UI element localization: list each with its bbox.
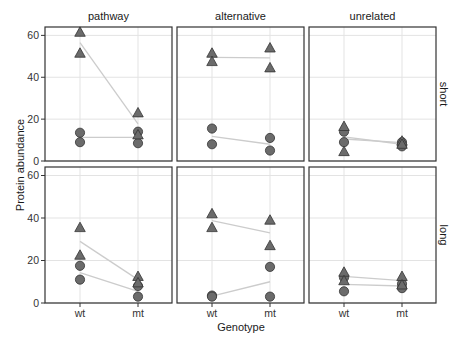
triangle-mean-line [212, 221, 270, 233]
triangle-mean-line [212, 57, 270, 58]
panel-border [45, 167, 172, 303]
circle-point [207, 124, 216, 133]
circle-point [75, 138, 84, 147]
y-tick-label: 0 [33, 155, 39, 167]
strip-label-unrelated: unrelated [350, 10, 396, 22]
x-tick-label: mt [132, 307, 144, 319]
triangle-point [265, 215, 276, 224]
triangle-point [75, 48, 86, 57]
x-tick-label: wt [338, 307, 350, 319]
circle-point [75, 275, 84, 284]
circle-point [133, 292, 142, 301]
strip-label-short: short [438, 82, 450, 106]
panel-short-unrelated [309, 27, 436, 161]
panel-short-pathway [45, 27, 172, 161]
circle-point [265, 146, 274, 155]
triangle-point [265, 43, 276, 52]
circle-point [133, 139, 142, 148]
circle-point [75, 261, 84, 270]
panels-layer [45, 27, 436, 303]
y-axis-title: Protein abundance [14, 119, 26, 211]
circle-point [339, 287, 348, 296]
triangle-point [75, 222, 86, 231]
triangle-mean-line [80, 43, 138, 124]
faceted-scatter-chart: pathwayalternativeunrelatedshortlong0204… [0, 0, 463, 346]
y-tick-label: 20 [27, 113, 39, 125]
panel-short-alternative [177, 27, 304, 161]
x-tick-label: wt [206, 307, 218, 319]
circle-mean-line [212, 136, 270, 144]
y-tick-label: 40 [27, 71, 39, 83]
triangle-point [75, 27, 86, 36]
circle-point [75, 128, 84, 137]
x-tick-label: wt [74, 307, 86, 319]
x-tick-label: mt [264, 307, 276, 319]
y-tick-label: 0 [33, 297, 39, 309]
axes-layer: pathwayalternativeunrelatedshortlong0204… [27, 10, 450, 319]
triangle-point [207, 208, 218, 217]
triangle-point [265, 62, 276, 71]
circle-point [207, 292, 216, 301]
circle-point [265, 133, 274, 142]
strip-label-pathway: pathway [88, 10, 129, 22]
triangle-point [339, 146, 350, 155]
circle-mean-line [212, 282, 270, 296]
triangle-point [339, 121, 350, 130]
panel-border [45, 27, 172, 161]
x-axis-title: Genotype [217, 321, 265, 333]
triangle-point [133, 107, 144, 116]
y-tick-label: 20 [27, 254, 39, 266]
triangle-mean-line [344, 276, 402, 280]
panel-border [177, 167, 304, 303]
circle-point [265, 292, 274, 301]
y-tick-label: 60 [27, 29, 39, 41]
circle-mean-line [344, 284, 402, 286]
y-tick-label: 40 [27, 212, 39, 224]
strip-label-alternative: alternative [215, 10, 266, 22]
triangle-point [207, 222, 218, 231]
triangle-point [265, 240, 276, 249]
strip-label-long: long [438, 225, 450, 246]
circle-mean-line [80, 273, 138, 292]
y-tick-label: 60 [27, 169, 39, 181]
panel-long-alternative [177, 167, 304, 303]
panel-border [309, 167, 436, 303]
circle-point [207, 140, 216, 149]
panel-long-pathway [45, 167, 172, 303]
triangle-point [75, 250, 86, 259]
panel-long-unrelated [309, 167, 436, 303]
circle-point [265, 262, 274, 271]
circle-mean-line [344, 137, 402, 144]
x-tick-label: mt [396, 307, 408, 319]
